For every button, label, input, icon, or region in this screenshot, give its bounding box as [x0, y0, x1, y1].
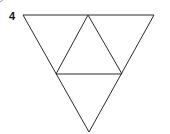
inner-triangle: [56, 15, 122, 74]
triangle-net-diagram: [0, 0, 170, 134]
